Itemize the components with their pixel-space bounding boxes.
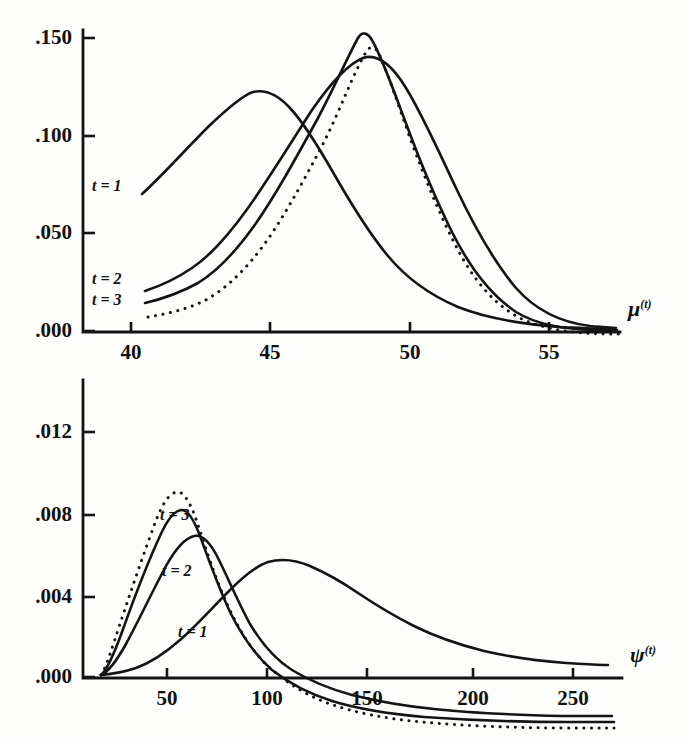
x-tick-label-psi-150: 150 bbox=[335, 686, 399, 711]
y-tick-label-mu-000: .000 bbox=[14, 318, 72, 343]
y-tick-label-psi-004: .004 bbox=[14, 584, 72, 609]
x-axis-title-psi: ψ(t) bbox=[630, 642, 656, 668]
x-tick-label-mu-45: 45 bbox=[246, 340, 294, 365]
x-tick-marks-mu bbox=[131, 322, 549, 332]
y-tick-label-mu-050: .050 bbox=[14, 220, 72, 245]
x-axis-title-mu-symbol: μ bbox=[628, 296, 640, 321]
x-axis-title-psi-symbol: ψ bbox=[630, 642, 645, 667]
curve-annotation-t2-mu: t = 2 bbox=[92, 270, 122, 288]
x-tick-marks-psi bbox=[167, 668, 573, 678]
curve-t1-mu bbox=[142, 91, 614, 329]
x-tick-label-psi-50: 50 bbox=[143, 686, 191, 711]
y-tick-label-mu-100: .100 bbox=[14, 123, 72, 148]
x-tick-label-mu-40: 40 bbox=[107, 340, 155, 365]
y-tick-label-psi-008: .008 bbox=[14, 502, 72, 527]
y-tick-label-psi-000: .000 bbox=[14, 664, 72, 689]
chart-panel-mu: .150 .100 .050 .000 40 45 50 55 t = 1 t … bbox=[0, 0, 688, 370]
x-tick-label-psi-100: 100 bbox=[235, 686, 299, 711]
curve-annotation-t2-psi: t = 2 bbox=[162, 562, 192, 580]
curve-annotation-t1-psi: t = 1 bbox=[178, 623, 208, 641]
figure-container: .150 .100 .050 .000 40 45 50 55 t = 1 t … bbox=[0, 0, 688, 741]
curve-annotation-t1-mu: t = 1 bbox=[92, 177, 122, 195]
x-axis-title-psi-superscript: (t) bbox=[645, 643, 656, 657]
x-axis-title-mu-superscript: (t) bbox=[640, 297, 651, 311]
chart-panel-psi: .012 .008 .004 .000 50 100 150 200 250 t… bbox=[0, 370, 688, 741]
x-tick-label-psi-200: 200 bbox=[441, 686, 505, 711]
curve-t2-mu bbox=[145, 57, 616, 328]
curve-t3-mu bbox=[145, 33, 617, 330]
x-tick-label-mu-55: 55 bbox=[525, 340, 573, 365]
x-tick-label-psi-250: 250 bbox=[541, 686, 605, 711]
x-tick-label-mu-50: 50 bbox=[386, 340, 434, 365]
curve-annotation-t3-mu: t = 3 bbox=[92, 291, 122, 309]
axis-lines-mu bbox=[83, 30, 620, 332]
y-tick-label-mu-150: .150 bbox=[14, 25, 72, 50]
y-tick-label-psi-012: .012 bbox=[14, 419, 72, 444]
curve-limit-dotted-mu bbox=[148, 47, 619, 334]
y-tick-marks-psi bbox=[83, 432, 95, 677]
x-axis-title-mu: μ(t) bbox=[628, 296, 652, 322]
curve-annotation-t3-psi: t = 3 bbox=[160, 506, 190, 524]
